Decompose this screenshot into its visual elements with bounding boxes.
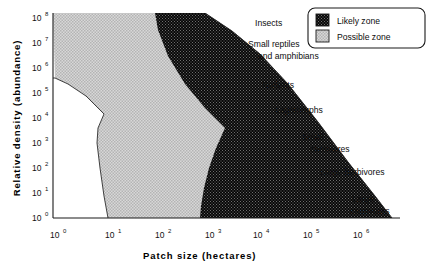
- annotation-large: Large: [352, 194, 374, 204]
- legend: Likely zone Possible zone: [308, 8, 425, 48]
- annotation-small: Small: [302, 132, 324, 142]
- annotation-large-herbivores: Large herbivores: [320, 167, 385, 177]
- x-tick-exponent: 3: [218, 228, 222, 234]
- x-tick-exponent: 4: [266, 228, 270, 234]
- x-tick-exponent: 6: [366, 228, 370, 234]
- y-tick-mantissa: 10: [32, 213, 42, 223]
- x-tick-mantissa: 10: [205, 230, 215, 240]
- annotation-small-reptiles: Small reptiles: [248, 39, 300, 49]
- y-tick-mantissa: 10: [32, 113, 42, 123]
- annotation-insects: Insects: [255, 18, 282, 28]
- chart-svg: 10 8 10 7 10 6 10 5 10 4 10 3 10 2 10 1 …: [0, 0, 429, 271]
- y-tick-mantissa: 10: [32, 138, 42, 148]
- y-tick-exponent: 8: [45, 11, 49, 17]
- y-tick-exponent: 3: [45, 136, 49, 142]
- y-tick-mantissa: 10: [32, 188, 42, 198]
- x-tick-exponent: 1: [118, 228, 122, 234]
- annotation-carnivores: carnivores: [310, 144, 350, 154]
- y-tick-exponent: 0: [45, 211, 49, 217]
- annotation-lagomorphs: Lagomorphs: [275, 105, 323, 115]
- x-tick-mantissa: 10: [105, 230, 115, 240]
- y-tick-mantissa: 10: [32, 163, 42, 173]
- y-tick-exponent: 1: [45, 186, 49, 192]
- x-axis-title: Patch size (hectares): [143, 250, 256, 261]
- y-tick-mantissa: 10: [32, 88, 42, 98]
- annotation-carnivores-large: carnivores: [350, 206, 390, 216]
- y-tick-exponent: 5: [45, 86, 49, 92]
- legend-label-possible: Possible zone: [337, 32, 391, 42]
- annotation-rodents: Rodents: [262, 80, 294, 90]
- x-tick-exponent: 5: [316, 228, 320, 234]
- y-tick-exponent: 4: [45, 111, 49, 117]
- y-tick-labels: 10 8 10 7 10 6 10 5 10 4 10 3 10 2 10 1 …: [32, 11, 49, 223]
- y-tick-mantissa: 10: [32, 38, 42, 48]
- legend-swatch-possible: [316, 30, 329, 42]
- y-tick-mantissa: 10: [32, 13, 42, 23]
- x-tick-exponent: 2: [168, 228, 172, 234]
- x-tick-mantissa: 10: [353, 230, 363, 240]
- x-tick-mantissa: 10: [253, 230, 263, 240]
- x-tick-mantissa: 10: [50, 230, 60, 240]
- x-tick-mantissa: 10: [155, 230, 165, 240]
- x-tick-mantissa: 10: [303, 230, 313, 240]
- legend-swatch-likely: [316, 14, 329, 26]
- y-axis-title: Relative density (abundance): [11, 40, 22, 197]
- x-tick-exponent: 0: [63, 228, 67, 234]
- figure-container: 10 8 10 7 10 6 10 5 10 4 10 3 10 2 10 1 …: [0, 0, 429, 271]
- annotation-and-amphibians: and amphibians: [258, 51, 319, 61]
- y-tick-exponent: 7: [45, 36, 49, 42]
- y-tick-exponent: 6: [45, 61, 49, 67]
- x-tick-labels: 10 0 10 1 10 2 10 3 10 4 10 5 10 6: [50, 228, 370, 240]
- y-tick-exponent: 2: [45, 161, 49, 167]
- legend-label-likely: Likely zone: [337, 16, 380, 26]
- y-tick-mantissa: 10: [32, 63, 42, 73]
